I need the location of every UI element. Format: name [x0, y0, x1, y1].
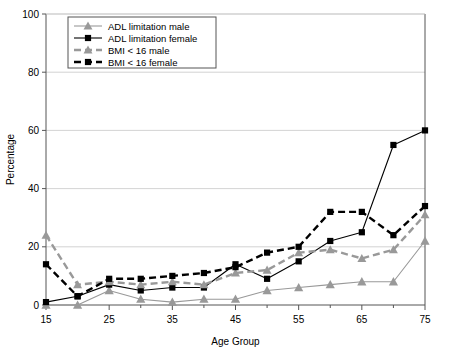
data-point-marker	[232, 264, 238, 270]
x-tick-label-45: 45	[230, 314, 242, 325]
data-point-marker	[327, 209, 333, 215]
data-point-marker	[169, 273, 175, 279]
data-point-marker	[359, 209, 365, 215]
x-tick-label-55: 55	[293, 314, 305, 325]
data-point-marker	[264, 276, 270, 282]
data-point-marker	[296, 258, 302, 264]
x-tick-label-25: 25	[104, 314, 116, 325]
data-point-marker	[201, 270, 207, 276]
data-point-marker	[296, 244, 302, 250]
legend-label-2: BMI < 16 male	[108, 45, 170, 56]
legend-label-3: BMI < 16 female	[108, 57, 177, 68]
y-tick-label-100: 100	[22, 9, 39, 20]
data-point-marker	[264, 250, 270, 256]
y-tick-label-80: 80	[28, 67, 40, 78]
legend-label-0: ADL limitation male	[108, 21, 189, 32]
data-point-marker	[422, 203, 428, 209]
percentage-by-age-group-line-chart: 02040608010015253545556575Age GroupPerce…	[0, 0, 453, 351]
data-point-marker	[359, 229, 365, 235]
data-point-marker	[327, 238, 333, 244]
data-point-marker	[43, 261, 49, 267]
data-point-marker	[390, 232, 396, 238]
data-point-marker	[169, 284, 175, 290]
data-point-marker	[85, 59, 91, 65]
data-point-marker	[74, 293, 80, 299]
y-axis-title: Percentage	[5, 133, 16, 185]
data-point-marker	[138, 287, 144, 293]
x-tick-label-15: 15	[40, 314, 52, 325]
y-tick-label-40: 40	[28, 183, 40, 194]
y-tick-label-20: 20	[28, 241, 40, 252]
y-tick-label-0: 0	[33, 300, 39, 311]
chart-legend: ADL limitation maleADL limitation female…	[68, 17, 216, 68]
legend-label-1: ADL limitation female	[108, 33, 197, 44]
x-tick-label-75: 75	[419, 314, 431, 325]
data-point-marker	[390, 142, 396, 148]
chart-container: 02040608010015253545556575Age GroupPerce…	[0, 0, 453, 351]
x-tick-label-35: 35	[167, 314, 179, 325]
data-point-marker	[422, 127, 428, 133]
data-point-marker	[138, 276, 144, 282]
x-axis-title: Age Group	[211, 336, 260, 347]
data-point-marker	[106, 276, 112, 282]
y-tick-label-60: 60	[28, 125, 40, 136]
x-tick-label-65: 65	[356, 314, 368, 325]
data-point-marker	[85, 35, 91, 41]
data-point-marker	[43, 299, 49, 305]
